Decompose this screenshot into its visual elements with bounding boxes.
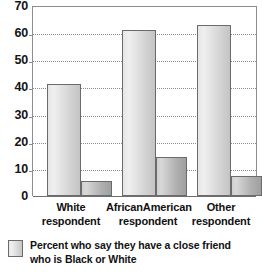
legend-label-line2: is Black or White (54, 253, 137, 265)
category-label-line1: White (32, 200, 110, 214)
y-tick-label-40: 40 (0, 81, 28, 94)
category-label-line1: Other (184, 200, 258, 214)
bar-africanamerican-respondent-close-friend (122, 30, 156, 196)
y-tick-label-30: 30 (0, 108, 28, 121)
bar-white-respondent-second (81, 181, 112, 196)
bar-group-africanamerican-respondent (122, 7, 187, 196)
axis-baseline-0 (33, 196, 256, 197)
x-axis-category-labels: White respondent AfricanAmerican respond… (32, 200, 258, 234)
category-label-line2: respondent (184, 214, 258, 228)
y-tick-label-60: 60 (0, 27, 28, 40)
category-label-white-respondent: White respondent (32, 200, 110, 228)
bar-africanamerican-respondent-second (156, 157, 187, 196)
category-label-other-respondent: Other respondent (184, 200, 258, 228)
bar-other-respondent-close-friend (197, 25, 231, 196)
bars-layer (33, 7, 256, 196)
bar-white-respondent-close-friend (47, 84, 81, 196)
bar-other-respondent-second (231, 176, 262, 196)
legend-swatch-icon (8, 240, 23, 257)
y-tick-label-70: 70 (0, 0, 28, 12)
bar-group-other-respondent (197, 7, 262, 196)
plot-area (32, 6, 257, 196)
chart-legend: Percent who say they have a close friend… (8, 239, 260, 266)
legend-label: Percent who say they have a close friend… (30, 239, 240, 266)
plot-wrapper: 70 60 50 40 30 20 10 0 (0, 6, 262, 202)
y-tick-label-50: 50 (0, 54, 28, 67)
category-label-line1: AfricanAmerican (106, 200, 190, 214)
category-label-line2: respondent (106, 214, 190, 228)
y-axis-tick-labels: 70 60 50 40 30 20 10 0 (0, 6, 28, 196)
bar-chart: 70 60 50 40 30 20 10 0 (0, 0, 262, 275)
y-tick-label-10: 10 (0, 163, 28, 176)
category-label-line2: respondent (32, 214, 110, 228)
y-tick-label-20: 20 (0, 135, 28, 148)
category-label-africanamerican-respondent: AfricanAmerican respondent (106, 200, 190, 228)
y-tick-label-0: 0 (0, 190, 28, 203)
bar-group-white-respondent (47, 7, 112, 196)
